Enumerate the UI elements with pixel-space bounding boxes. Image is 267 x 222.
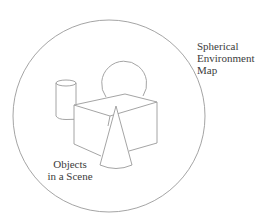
environment-map-label: Spherical Environment Map <box>197 40 254 76</box>
label-line-2: in a Scene <box>47 170 92 182</box>
environment-map-diagram: Spherical Environment Map Objects in a S… <box>0 0 267 222</box>
label-line-2: Environment <box>197 52 254 64</box>
label-line-3: Map <box>197 64 218 76</box>
label-line-1: Spherical <box>197 40 239 52</box>
cone-shape <box>100 106 132 169</box>
cylinder-shape <box>56 80 76 120</box>
label-line-1: Objects <box>53 158 87 170</box>
sphere-shape <box>102 61 147 97</box>
objects-label: Objects in a Scene <box>47 158 92 182</box>
